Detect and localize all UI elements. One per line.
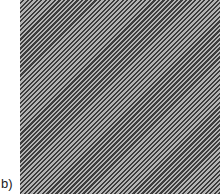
panel-label: b) (1, 177, 13, 191)
diagonal-stripe-pattern (20, 0, 220, 194)
